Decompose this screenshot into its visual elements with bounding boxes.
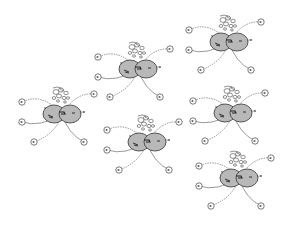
cluster-5	[190, 86, 268, 144]
cluster-diagram	[0, 0, 292, 227]
cluster-3	[19, 87, 97, 145]
cluster-1	[95, 42, 173, 100]
cluster-2	[186, 15, 264, 73]
cluster-4	[104, 115, 182, 173]
cluster-6	[196, 151, 274, 209]
diagram-canvas	[0, 0, 292, 227]
